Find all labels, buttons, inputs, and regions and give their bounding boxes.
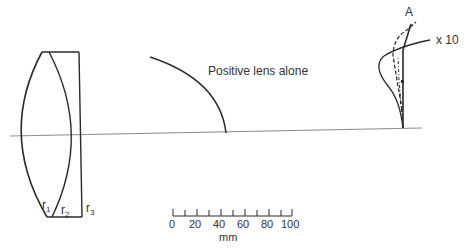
scale-tick-20: 20: [189, 218, 201, 230]
r3-subscript: 3: [90, 208, 94, 217]
label-r2: r2: [61, 203, 69, 217]
lens-surface-r1: [21, 52, 47, 217]
scale-tick-60: 60: [237, 218, 249, 230]
label-point-a: A: [405, 5, 413, 19]
aberration-curve-solid: [403, 24, 411, 128]
scale-tick-0: 0: [169, 218, 175, 230]
label-r3: r3: [86, 201, 94, 215]
label-r1: r1: [42, 198, 50, 212]
label-positive-lens-alone: Positive lens alone: [208, 64, 308, 78]
aberration-curve-x10: [379, 40, 430, 128]
scale-unit: mm: [219, 231, 237, 243]
aberration-curve-dashed: [393, 22, 416, 110]
label-magnification: x 10: [436, 33, 459, 47]
diagram-canvas: [0, 0, 464, 248]
curve-marker: [401, 80, 404, 83]
scale-tick-40: 40: [213, 218, 225, 230]
r1-subscript: 1: [46, 205, 50, 214]
r2-subscript: 2: [65, 210, 69, 219]
scale-tick-80: 80: [261, 218, 273, 230]
scale-bar: [173, 209, 292, 216]
scale-tick-100: 100: [281, 218, 299, 230]
